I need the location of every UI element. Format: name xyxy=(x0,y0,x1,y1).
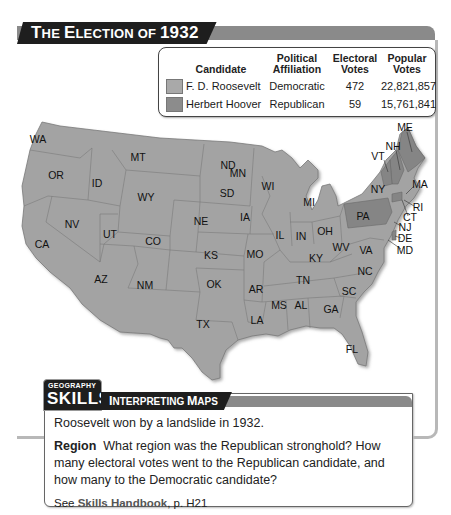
svg-text:NC: NC xyxy=(357,265,373,277)
svg-text:ID: ID xyxy=(92,177,103,189)
svg-text:WY: WY xyxy=(138,191,155,203)
svg-text:MN: MN xyxy=(230,167,246,179)
svg-text:NM: NM xyxy=(137,279,153,291)
svg-text:SD: SD xyxy=(220,187,235,199)
svg-text:NY: NY xyxy=(371,183,386,195)
svg-text:WI: WI xyxy=(262,180,275,192)
svg-text:MI: MI xyxy=(303,196,315,208)
svg-text:TX: TX xyxy=(196,318,209,330)
skills-handbook-link[interactable]: Skills Handbook xyxy=(78,497,167,509)
svg-text:VA: VA xyxy=(359,244,372,256)
svg-text:CO: CO xyxy=(145,235,161,247)
election-results-table: Candidate PoliticalAffiliation Electoral… xyxy=(158,47,436,117)
row-popular: 15,761,841 xyxy=(381,98,435,111)
row-candidate: F. D. Roosevelt xyxy=(186,80,261,93)
svg-text:IL: IL xyxy=(276,229,285,241)
svg-text:WV: WV xyxy=(333,241,350,253)
svg-text:AZ: AZ xyxy=(94,273,108,285)
state-de xyxy=(392,230,396,240)
svg-text:WA: WA xyxy=(30,133,47,145)
swatch-democratic xyxy=(166,79,183,94)
svg-text:DE: DE xyxy=(398,232,413,244)
svg-text:UT: UT xyxy=(103,228,118,240)
row-electoral: 472 xyxy=(329,80,381,93)
svg-text:KS: KS xyxy=(204,249,218,261)
skills-reference: See Skills Handbook, p. H21 xyxy=(54,495,404,512)
skills-tab-title: INTERPRETING MAPS xyxy=(101,392,232,410)
svg-text:OK: OK xyxy=(206,278,221,290)
svg-text:FL: FL xyxy=(346,343,358,355)
row-popular: 22,821,857 xyxy=(381,80,435,93)
svg-text:GA: GA xyxy=(323,303,338,315)
row-candidate: Herbert Hoover xyxy=(186,98,261,111)
svg-text:CA: CA xyxy=(35,238,50,250)
svg-text:KY: KY xyxy=(309,252,323,264)
svg-text:OH: OH xyxy=(317,225,333,237)
svg-text:MD: MD xyxy=(397,244,414,256)
svg-text:MO: MO xyxy=(247,248,264,260)
svg-text:ME: ME xyxy=(397,121,413,133)
svg-text:IN: IN xyxy=(296,230,307,242)
skills-text: Roosevelt won by a landslide in 1932. Re… xyxy=(54,415,404,515)
geography-skills-badge: GEOGRAPHY SKILLS xyxy=(43,379,102,411)
skills-question: Region What region was the Republican st… xyxy=(54,438,404,489)
header-candidate: Candidate xyxy=(181,64,261,75)
svg-text:LA: LA xyxy=(251,314,264,326)
header-affiliation: PoliticalAffiliation xyxy=(264,53,330,75)
svg-text:NE: NE xyxy=(194,215,209,227)
svg-text:TN: TN xyxy=(296,274,310,286)
svg-text:MA: MA xyxy=(412,178,428,190)
svg-text:VT: VT xyxy=(371,150,385,162)
svg-text:MS: MS xyxy=(271,299,287,311)
header-electoral: ElectoralVotes xyxy=(329,53,381,75)
svg-text:OR: OR xyxy=(48,169,64,181)
row-electoral: 59 xyxy=(329,98,381,111)
row-affiliation: Republican xyxy=(264,98,330,111)
row-affiliation: Democratic xyxy=(264,80,330,93)
svg-text:NH: NH xyxy=(385,140,400,152)
svg-text:IA: IA xyxy=(240,211,250,223)
svg-text:PA: PA xyxy=(356,210,369,222)
state-ct xyxy=(392,192,402,202)
svg-text:AR: AR xyxy=(249,283,264,295)
header-popular: PopularVotes xyxy=(381,53,433,75)
svg-text:AL: AL xyxy=(295,299,308,311)
us-map: WA OR ID MT WY ND SD MN WI MI NV UT CO N… xyxy=(0,110,451,400)
skills-intro: Roosevelt won by a landslide in 1932. xyxy=(54,415,404,432)
svg-text:MT: MT xyxy=(130,151,146,163)
swatch-republican xyxy=(166,97,183,112)
svg-text:NV: NV xyxy=(65,218,80,230)
svg-text:SC: SC xyxy=(342,285,357,297)
